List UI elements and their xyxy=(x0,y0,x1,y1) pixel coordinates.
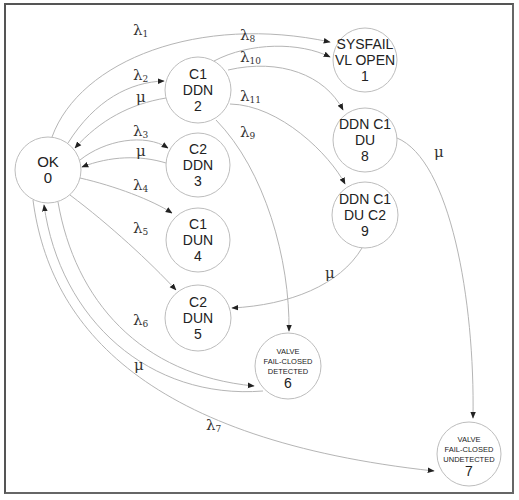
edge-2-to-9 xyxy=(230,104,345,184)
state-node-5: C2DUN5 xyxy=(165,285,231,351)
label-lambda-11: λ11 xyxy=(240,87,261,105)
state-label-line: 8 xyxy=(361,148,369,164)
edge-8-to-7 xyxy=(397,138,473,418)
state-node-4: C1DUN4 xyxy=(166,208,230,272)
state-label-line: VALVE xyxy=(457,435,480,444)
state-label-line: 2 xyxy=(194,98,202,114)
state-label-line: VL OPEN xyxy=(335,52,395,68)
state-label-line: 3 xyxy=(194,173,202,189)
state-label-line: DU xyxy=(355,132,375,148)
edge-6-to-0 xyxy=(44,205,263,392)
label-mu-6-0: μ xyxy=(134,356,144,374)
state-label-line: DDN xyxy=(183,82,213,98)
state-label-line: DDN C1 xyxy=(339,191,391,207)
state-label-line: 0 xyxy=(44,169,52,186)
state-label-line: OK xyxy=(37,153,59,170)
edge-2-to-0 xyxy=(75,98,166,148)
edge-2-to-1 xyxy=(214,46,330,61)
label-mu-9-5: μ xyxy=(325,264,335,282)
label-mu-3-0: μ xyxy=(136,142,146,160)
edge-3-to-0 xyxy=(82,158,166,167)
state-label-line: DUN xyxy=(183,232,213,248)
label-lambda-4: λ4 xyxy=(133,176,149,194)
state-node-9: DDN C1DU C29 xyxy=(332,182,398,248)
label-mu-8-7: μ xyxy=(434,143,444,161)
state-label-line: C2 xyxy=(189,294,207,310)
state-label-line: DUN xyxy=(183,310,213,326)
state-node-1: SYSFAILVL OPEN1 xyxy=(333,28,397,92)
edge-9-to-5 xyxy=(232,248,362,308)
state-node-0: OK0 xyxy=(15,137,81,203)
state-node-6: VALVEFAIL-CLOSEDDETECTED6 xyxy=(255,333,321,399)
label-lambda-2: λ2 xyxy=(133,66,148,84)
state-label-line: 7 xyxy=(465,463,473,479)
edge-0-to-3 xyxy=(80,140,168,160)
label-lambda-7: λ7 xyxy=(206,416,222,434)
label-lambda-10: λ10 xyxy=(240,48,261,66)
state-label-line: FAIL-CLOSED xyxy=(264,357,313,366)
state-node-3: C2DDN3 xyxy=(166,133,230,197)
state-label-line: FAIL-CLOSED xyxy=(445,445,494,454)
label-lambda-6: λ6 xyxy=(133,311,149,329)
state-label-line: VALVE xyxy=(276,347,299,356)
state-label-line: 4 xyxy=(194,248,202,264)
label-lambda-8: λ8 xyxy=(240,26,256,44)
state-label-line: 6 xyxy=(284,375,292,391)
state-label-line: DU C2 xyxy=(344,207,386,223)
state-label-line: 9 xyxy=(361,223,369,239)
state-label-line: SYSFAIL xyxy=(337,36,394,52)
state-label-line: C1 xyxy=(189,66,207,82)
state-label-line: 5 xyxy=(194,326,202,342)
state-node-7: VALVEFAIL-CLOSEDUNDETECTED7 xyxy=(437,422,501,486)
label-mu-2-0: μ xyxy=(136,88,146,106)
state-label-line: DDN C1 xyxy=(339,116,391,132)
label-lambda-3: λ3 xyxy=(133,122,149,140)
state-label-line: C1 xyxy=(189,216,207,232)
edge-0-to-4 xyxy=(80,178,172,213)
edge-0-to-5 xyxy=(70,195,176,290)
state-label-line: DDN xyxy=(183,157,213,173)
label-lambda-9: λ9 xyxy=(240,123,256,141)
label-lambda-1: λ1 xyxy=(133,21,148,39)
state-label-line: 1 xyxy=(361,68,369,84)
state-diagram: λ1 λ2 μ λ3 μ λ4 λ5 λ6 μ λ7 λ8 λ9 λ10 λ11… xyxy=(0,0,519,500)
state-node-2: C1DDN2 xyxy=(165,57,231,123)
state-label-line: C2 xyxy=(189,141,207,157)
edge-0-to-2 xyxy=(68,81,164,143)
label-lambda-5: λ5 xyxy=(133,219,149,237)
state-node-8: DDN C1DU8 xyxy=(333,108,397,172)
